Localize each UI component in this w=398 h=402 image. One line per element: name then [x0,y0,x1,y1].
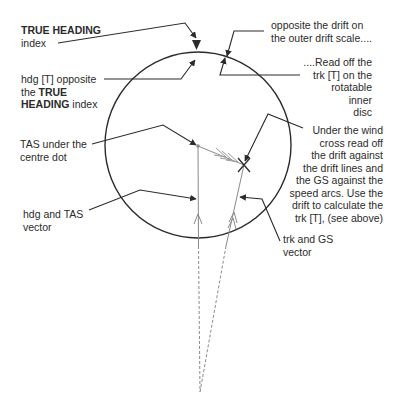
label-trk-gs-vector: trk and GS vector [283,233,333,258]
label-tas-centre-dot: TAS under the centre dot [20,138,87,163]
label-text: index [69,98,97,110]
label-text: cross read off [320,137,383,149]
label-text: the drift lines and [303,162,383,174]
leader-read-trk [220,58,300,75]
label-text: trk [T], (see above) [295,212,383,224]
label-text: hdg [T] opposite [21,73,96,85]
label-text: TRUE HEADING [21,24,101,36]
leader-hdg-opposite [104,60,195,79]
label-text: index [21,37,46,49]
label-drift-outer-scale: opposite the drift on the outer drift sc… [271,19,372,44]
label-text: the [21,86,39,98]
label-text: vector [283,246,312,258]
trk-vector-arrow-icon [228,212,237,229]
hdg-tas-vector-dashed [199,246,201,392]
label-read-trk: ....Read off the trk [T] on the rotatabl… [300,56,372,119]
label-true-heading-index: TRUE HEADING index [21,24,101,49]
label-text: HEADING [21,98,69,110]
leader-drift-outer [227,31,264,56]
leader-tas-centre [92,125,196,145]
label-text: trk and GS [283,233,333,245]
label-text: TRUE [39,86,68,98]
label-text: vector [23,221,52,233]
label-text: Under the wind [312,124,383,136]
label-text: rotatable [331,81,372,93]
hdg-tas-vector-line [198,146,199,246]
label-text: the outer drift scale.... [271,32,372,44]
label-text: ....Read off the [303,56,372,68]
label-text: drift to calculate the [292,199,383,211]
label-text: disc [353,106,372,118]
true-heading-index-triangle [192,40,201,50]
leader-hdg-tas-vector [89,190,196,210]
label-text: speed arcs. Use the [290,187,383,199]
label-hdg-tas-vector: hdg and TAS vector [23,208,83,233]
wind-cross-icon [238,158,250,172]
label-text: opposite the drift on [271,19,363,31]
label-text: TAS under the [20,138,87,150]
label-text: hdg and TAS [23,208,83,220]
trk-gs-vector-dashed [200,246,226,392]
label-text: the GS against the [296,174,383,186]
label-wind-cross: Under the wind cross read off the drift … [266,124,383,224]
label-text: the drift against [311,149,383,161]
label-text: centre dot [20,151,67,163]
label-text: trk [T] on the [313,69,372,81]
label-hdg-opposite: hdg [T] opposite the TRUE HEADING index [21,73,97,111]
wind-vector-arrow-icon [214,148,238,162]
trk-gs-vector-line [226,165,244,246]
label-text: inner [349,94,372,106]
